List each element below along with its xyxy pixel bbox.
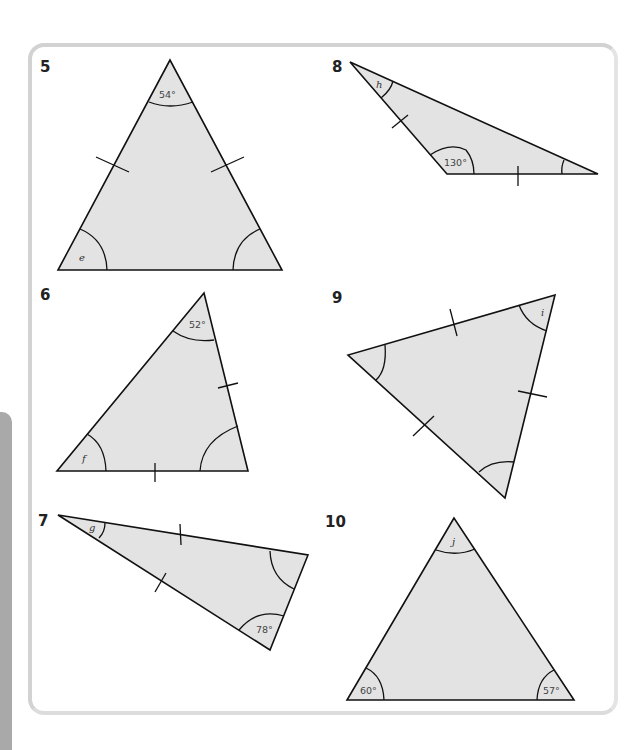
question-number: 8 [332, 58, 342, 76]
question-6: 6 52° f [40, 286, 248, 482]
angle-label: 52° [189, 319, 206, 330]
question-5: 5 54° e [40, 58, 282, 270]
angle-label: 54° [159, 89, 176, 100]
unknown-angle-label: h [376, 79, 382, 90]
triangle-9 [348, 295, 555, 498]
question-number: 6 [40, 286, 50, 304]
question-number: 7 [38, 512, 48, 530]
unknown-angle-label: e [79, 252, 85, 263]
question-8: 8 h 130° [332, 58, 598, 186]
triangle-8 [350, 62, 598, 174]
unknown-angle-label: g [89, 522, 95, 533]
angle-label: 60° [360, 685, 377, 696]
question-10: 10 j 60° 57° [325, 513, 574, 700]
angle-label: 57° [543, 685, 560, 696]
question-9: 9 i [332, 289, 555, 498]
triangle-10 [347, 518, 574, 700]
unknown-angle-label: i [541, 307, 544, 318]
triangle-6 [57, 293, 248, 471]
question-number: 5 [40, 58, 50, 76]
angle-label: 78° [256, 624, 273, 635]
question-7: 7 g 78° [38, 512, 308, 650]
angle-label: 130° [444, 157, 467, 168]
question-number: 10 [325, 513, 346, 531]
question-number: 9 [332, 289, 342, 307]
